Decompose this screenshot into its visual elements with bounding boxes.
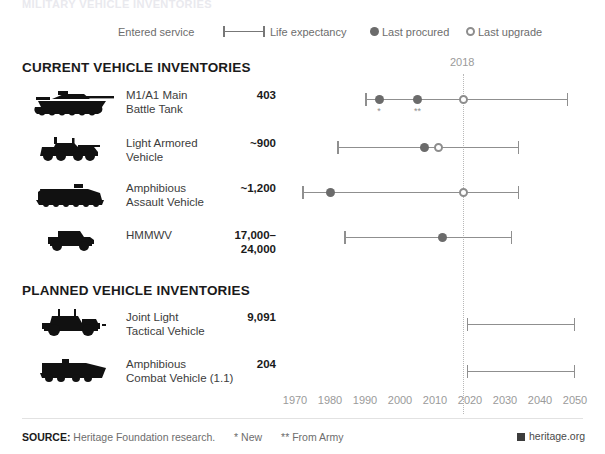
x-axis: 197019801990200020102020203020402050 [280,394,605,410]
reference-year-line [463,74,465,414]
vehicle-name-line2: Vehicle [126,151,246,165]
legend-entered-service: Entered service [118,25,194,39]
aav-icon [28,180,120,210]
vehicle-count: 9,091 [214,311,276,325]
marker-footnote: ** [414,106,421,116]
last-procured-marker [375,95,384,104]
axis-tick-2010: 2010 [423,394,447,406]
last-procured-marker [326,188,335,197]
vehicle-count: 17,000– 24,000 [214,229,276,256]
vehicle-name-line2: Combat Vehicle (1.1) [126,372,246,386]
timeline-bar [467,318,576,331]
legend-last-upgrade: Last upgrade [478,25,542,39]
legend-life-expectancy: Life expectancy [270,25,346,39]
timeline-bar [302,186,519,199]
last-upgrade-marker [459,95,468,104]
last-procured-marker [438,233,447,242]
timeline-bar [467,365,576,378]
vehicle-count: ~900 [214,137,276,151]
heritage-brand[interactable]: heritage.org [517,430,585,442]
acv-icon [28,356,120,386]
legend-last-procured: Last procured [382,25,449,39]
source-text: Heritage Foundation research. [73,431,215,443]
reference-year-label: 2018 [450,56,474,68]
timeline-bar [344,231,512,244]
vehicle-count: 204 [214,358,276,372]
footnote-from-army: ** From Army [281,431,343,443]
vehicle-count: ~1,200 [214,182,276,196]
axis-tick-1990: 1990 [353,394,377,406]
source-label: SOURCE: [22,431,70,443]
axis-tick-2050: 2050 [563,394,587,406]
last-procured-marker [420,143,429,152]
jltv-icon [28,307,120,339]
last-procured-marker [413,95,422,104]
brand-text: heritage.org [529,430,585,442]
axis-tick-2020: 2020 [458,394,482,406]
axis-tick-1980: 1980 [318,394,342,406]
last-upgrade-marker [434,143,443,152]
timeline-bar: *** [365,93,568,106]
axis-tick-2030: 2030 [493,394,517,406]
tank-icon [28,87,120,119]
axis-tick-2000: 2000 [388,394,412,406]
marker-footnote: * [377,106,381,116]
life-expectancy-bar-icon [222,25,266,38]
axis-tick-1970: 1970 [283,394,307,406]
axis-tick-2040: 2040 [528,394,552,406]
last-upgrade-marker [459,188,468,197]
footer-divider [22,418,583,419]
lav-icon [28,135,120,165]
cutoff-title: MILITARY VEHICLE INVENTORIES [22,0,352,9]
footnote-new: * New [234,431,262,443]
section-heading-planned: PLANNED VEHICLE INVENTORIES [22,283,250,298]
chart-legend: Entered service Life expectancy Last pro… [118,24,518,42]
hmmwv-icon [28,227,120,253]
vehicle-count: 403 [214,89,276,103]
vehicle-name-line2: Assault Vehicle [126,196,246,210]
vehicle-count-line1: 17,000– [214,229,276,243]
timeline-bar [337,141,519,154]
open-circle-icon [466,27,475,36]
vehicle-name-line2: Tactical Vehicle [126,325,246,339]
source-note: SOURCE: Heritage Foundation research. * … [22,431,343,443]
section-heading-current: CURRENT VEHICLE INVENTORIES [22,60,251,75]
heritage-logo-icon [517,433,525,441]
filled-circle-icon [370,27,379,36]
timeline-plot: 2018 *** [280,56,595,390]
vehicle-name-line2: Battle Tank [126,103,246,117]
vehicle-count-line2: 24,000 [214,243,276,257]
infographic-canvas: MILITARY VEHICLE INVENTORIES Entered ser… [0,0,605,454]
